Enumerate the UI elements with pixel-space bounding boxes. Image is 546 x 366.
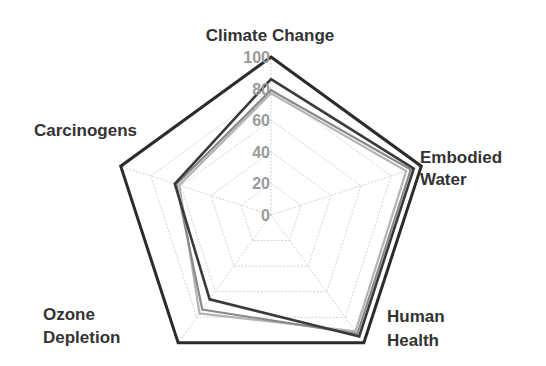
axis-label-embodied-water: EmbodiedWater [420,148,502,189]
radial-tick-label: 80 [252,81,270,98]
radial-tick-label: 20 [252,175,270,192]
radial-tick-label: 40 [252,144,270,161]
radar-chart: 020406080100 Climate Change EmbodiedWate… [0,0,546,366]
radial-tick-label: 60 [252,112,270,129]
grid-ring [241,183,301,240]
radial-tick-label: 0 [261,207,270,224]
axis-label-carcinogens: Carcinogens [34,121,137,140]
axis-label-ozone-depletion: OzoneDepletion [43,305,120,347]
grid-spoke [121,166,271,215]
axis-label-human-health: HumanHealth [387,307,445,350]
radar-grid [121,57,422,343]
grid-spoke [178,215,271,343]
radial-tick-label: 100 [243,49,270,66]
axis-label-climate-change: Climate Change [206,26,334,45]
